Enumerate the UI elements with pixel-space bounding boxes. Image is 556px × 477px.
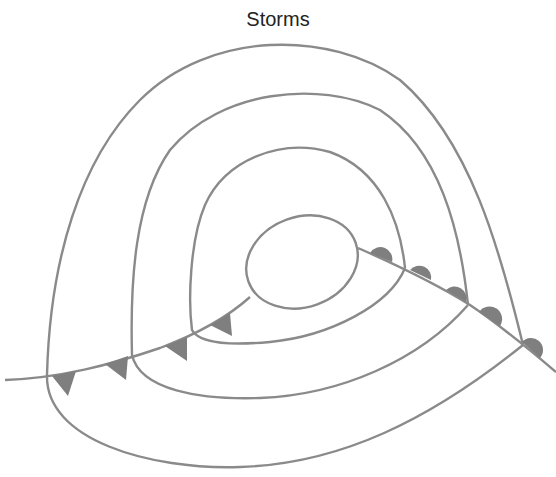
warm-front-semicircle-icon bbox=[522, 338, 543, 358]
storm-diagram bbox=[0, 0, 556, 477]
warm-front-semicircle-icon bbox=[479, 306, 502, 326]
cold-front-triangle-icon bbox=[105, 356, 128, 380]
cold-front-line bbox=[5, 297, 250, 380]
isobar-outer bbox=[47, 45, 523, 468]
cold-front-triangle-icon bbox=[210, 313, 232, 336]
warm-front-line bbox=[358, 248, 556, 372]
isobar-inner bbox=[233, 200, 371, 324]
warm-front-semicircle-icon bbox=[446, 286, 467, 302]
isobar-3 bbox=[190, 148, 405, 344]
